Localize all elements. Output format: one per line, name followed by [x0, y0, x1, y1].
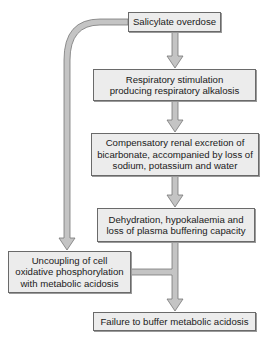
- node-salicylate-overdose: Salicylate overdose: [128, 12, 221, 32]
- node-uncoupling: Uncoupling of cell oxidative phosphoryla…: [8, 251, 131, 293]
- arrow-3-4: [167, 176, 183, 207]
- arrow-1-2: [167, 31, 183, 68]
- node-dehydration: Dehydration, hypokalaemia and loss of pl…: [97, 208, 255, 242]
- node-respiratory-stimulation: Respiratory stimulation producing respir…: [93, 69, 256, 101]
- arrow-2-3: [167, 101, 183, 132]
- arrow-4-6: [131, 242, 183, 311]
- node-renal-excretion: Compensatory renal excretion of bicarbon…: [91, 133, 259, 176]
- node-failure-to-buffer: Failure to buffer metabolic acidosis: [93, 312, 256, 331]
